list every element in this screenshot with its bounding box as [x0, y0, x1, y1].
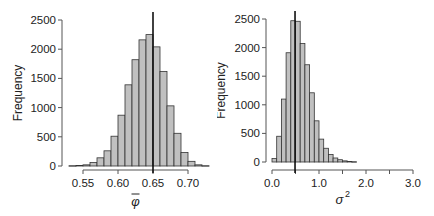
- histogram-bar: [281, 99, 286, 162]
- histogram-bar: [272, 159, 277, 162]
- x-tick-label: 0.70: [177, 177, 199, 189]
- histogram-bar: [338, 160, 343, 162]
- x-axis: 0.01.02.03.0σ2: [264, 170, 421, 207]
- histogram-bar: [324, 148, 329, 162]
- x-axis: 0.550.600.650.70φ: [72, 170, 199, 209]
- histogram-bar: [300, 44, 305, 162]
- y-axis: 05001000150020002500Frequency: [217, 13, 266, 168]
- histogram-bar: [125, 85, 132, 166]
- bars: [272, 21, 357, 162]
- histogram-bar: [195, 165, 202, 166]
- x-axis-label: σ: [336, 192, 345, 207]
- y-tick-label: 1500: [30, 72, 56, 84]
- histogram-phi-bar: 05001000150020002500Frequency0.550.600.6…: [0, 0, 217, 216]
- x-tick-label: 1.0: [311, 177, 327, 189]
- histogram-bar: [132, 60, 139, 166]
- x-axis-label-superscript: 2: [345, 189, 350, 199]
- x-tick-label: 0.60: [107, 177, 129, 189]
- x-tick-label: 2.0: [358, 177, 374, 189]
- histogram-bar: [104, 151, 111, 166]
- x-axis-label: φ: [131, 194, 140, 209]
- histogram-bar: [328, 155, 333, 162]
- y-axis: 05001000150020002500Frequency: [11, 14, 62, 172]
- x-tick-label: 0.0: [264, 177, 280, 189]
- y-tick-label: 2000: [30, 43, 56, 55]
- histogram-bar: [343, 161, 348, 162]
- histogram-bar: [83, 165, 90, 166]
- histogram-bar: [305, 65, 310, 162]
- bars: [69, 35, 209, 167]
- x-tick-label: 3.0: [405, 177, 421, 189]
- y-tick-label: 2000: [234, 42, 260, 54]
- y-tick-label: 1000: [30, 102, 56, 114]
- histogram-bar: [69, 166, 76, 167]
- histogram-bar: [167, 106, 174, 166]
- histogram-bar: [277, 136, 282, 162]
- y-tick-label: 2500: [234, 13, 260, 25]
- histogram-sigma-squared-svg: 05001000150020002500Frequency0.01.02.03.…: [217, 0, 434, 216]
- histogram-bar: [181, 153, 188, 166]
- y-tick-label: 500: [37, 131, 56, 143]
- x-tick-label: 0.55: [72, 177, 94, 189]
- histogram-bar: [352, 162, 357, 163]
- y-tick-label: 500: [241, 127, 260, 139]
- histogram-bar: [333, 158, 338, 162]
- y-axis-label: Frequency: [11, 65, 25, 122]
- histogram-bar: [202, 166, 209, 167]
- histogram-bar: [146, 35, 153, 166]
- histogram-bar: [139, 40, 146, 166]
- y-tick-label: 0: [50, 160, 56, 172]
- histogram-bar: [76, 165, 83, 166]
- y-tick-label: 1000: [234, 99, 260, 111]
- histogram-bar: [118, 115, 125, 166]
- histogram-bar: [160, 71, 167, 166]
- histogram-bar: [111, 136, 118, 166]
- histogram-bar: [347, 161, 352, 162]
- histogram-bar: [286, 53, 291, 162]
- histogram-sigma-squared: 05001000150020002500Frequency0.01.02.03.…: [217, 0, 434, 216]
- histogram-bar: [188, 161, 195, 166]
- histogram-bar: [319, 139, 324, 162]
- y-tick-label: 1500: [234, 70, 260, 82]
- histogram-phi-bar-svg: 05001000150020002500Frequency0.550.600.6…: [0, 0, 217, 216]
- y-tick-label: 0: [254, 156, 260, 168]
- x-tick-label: 0.65: [142, 177, 164, 189]
- histogram-bar: [153, 47, 160, 166]
- y-tick-label: 2500: [30, 14, 56, 26]
- histogram-bar: [174, 133, 181, 166]
- histogram-bar: [296, 21, 301, 162]
- histogram-bar: [90, 162, 97, 166]
- histogram-bar: [310, 93, 315, 162]
- y-axis-label: Frequency: [217, 62, 228, 119]
- histogram-bar: [97, 158, 104, 166]
- histogram-bar: [314, 121, 319, 162]
